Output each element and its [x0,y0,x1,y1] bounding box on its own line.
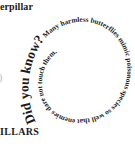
spiral-text: Did you know? Many harmless butterflies … [16,16,133,127]
spiral-fact-graphic: Did you know? Many harmless butterflies … [0,0,135,152]
spiral-body-fact: Many harmless butterflies mimic poisonou… [36,16,133,126]
